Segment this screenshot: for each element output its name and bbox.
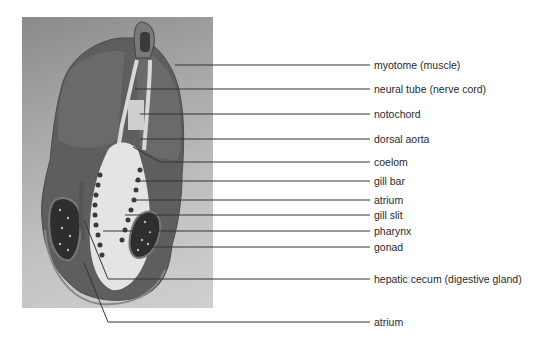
label-notochord: notochord	[374, 108, 421, 120]
label-dorsal-aorta: dorsal aorta	[374, 133, 429, 145]
label-gill-bar: gill bar	[374, 175, 405, 187]
label-gill-slit: gill slit	[374, 209, 403, 221]
label-atrium-upper: atrium	[374, 194, 403, 206]
label-pharynx: pharynx	[374, 225, 411, 237]
micrograph-illustration	[0, 0, 542, 344]
label-atrium-lower: atrium	[374, 316, 403, 328]
label-neural-tube: neural tube (nerve cord)	[374, 83, 486, 95]
label-myotome: myotome (muscle)	[374, 59, 460, 71]
label-coelom: coelom	[374, 156, 408, 168]
label-hepatic-cecum: hepatic cecum (digestive gland)	[374, 273, 522, 285]
label-gonad: gonad	[374, 241, 403, 253]
